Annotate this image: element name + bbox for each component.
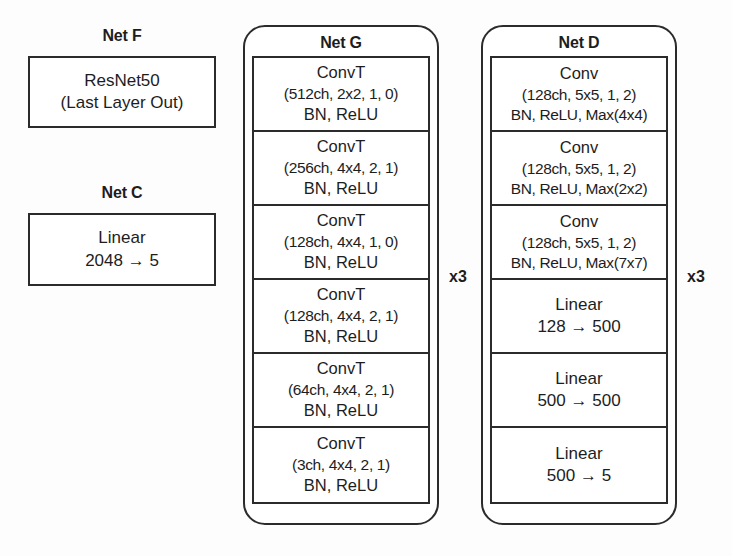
net-f-box-line-2: (Last Layer Out): [61, 92, 184, 114]
net-f-box-line-1: ResNet50: [84, 70, 160, 92]
net-g-block-3-params: (128ch, 4x4, 1, 0): [284, 232, 398, 252]
net-g-label: Net G: [252, 31, 430, 56]
net-g-block-3: ConvT (128ch, 4x4, 1, 0) BN, ReLU: [254, 206, 428, 280]
net-g-block-4-op: ConvT: [317, 284, 366, 305]
net-c-group: Net C Linear 2048 → 5: [28, 185, 216, 286]
net-d-block-2: Conv (128ch, 5x5, 1, 2) BN, ReLU, Max(2x…: [492, 132, 666, 206]
net-d-block-3-op: Conv: [560, 211, 599, 232]
net-d-block-3: Conv (128ch, 5x5, 1, 2) BN, ReLU, Max(7x…: [492, 206, 666, 280]
net-d-block-3-params: (128ch, 5x5, 1, 2): [522, 233, 636, 253]
net-g-block-6: ConvT (3ch, 4x4, 2, 1) BN, ReLU: [254, 428, 428, 502]
net-g-block-1-extras: BN, ReLU: [304, 104, 378, 125]
net-d-block-1-extras: BN, ReLU, Max(4x4): [511, 105, 648, 125]
net-d-block-1-params: (128ch, 5x5, 1, 2): [522, 85, 636, 105]
net-g-block-3-op: ConvT: [317, 210, 366, 231]
net-d-block-3-extras: BN, ReLU, Max(7x7): [511, 253, 648, 273]
net-g-block-2-extras: BN, ReLU: [304, 178, 378, 199]
net-g-block-1-params: (512ch, 2x2, 1, 0): [284, 84, 398, 104]
net-g-repeat-marker: x3: [449, 269, 467, 285]
net-g-block-6-extras: BN, ReLU: [304, 475, 378, 496]
net-g-block-1-op: ConvT: [317, 62, 366, 83]
net-g-block-6-params: (3ch, 4x4, 2, 1): [292, 455, 390, 475]
net-d-block-6: Linear 500 → 5: [492, 428, 666, 502]
net-d-block-2-op: Conv: [560, 137, 599, 158]
net-d-block-5-params: 500 → 500: [537, 390, 620, 412]
net-d-block-6-params: 500 → 5: [547, 465, 611, 487]
net-d-container: Net D Conv (128ch, 5x5, 1, 2) BN, ReLU, …: [481, 25, 677, 525]
net-c-box-line-1: Linear: [98, 227, 145, 249]
net-d-group: Net D Conv (128ch, 5x5, 1, 2) BN, ReLU, …: [481, 25, 677, 525]
net-c-box-line-2: 2048 → 5: [85, 250, 159, 272]
net-d-block-2-params: (128ch, 5x5, 1, 2): [522, 159, 636, 179]
net-g-block-1: ConvT (512ch, 2x2, 1, 0) BN, ReLU: [254, 58, 428, 132]
net-d-block-4: Linear 128 → 500: [492, 280, 666, 354]
net-g-block-5-extras: BN, ReLU: [304, 400, 378, 421]
net-g-block-4-extras: BN, ReLU: [304, 326, 378, 347]
net-d-block-6-op: Linear: [555, 443, 602, 465]
net-d-block-5: Linear 500 → 500: [492, 354, 666, 428]
net-g-block-2: ConvT (256ch, 4x4, 2, 1) BN, ReLU: [254, 132, 428, 206]
net-f-label: Net F: [28, 28, 216, 44]
net-g-block-3-extras: BN, ReLU: [304, 252, 378, 273]
net-g-container: Net G ConvT (512ch, 2x2, 1, 0) BN, ReLU …: [243, 25, 439, 525]
net-g-block-2-op: ConvT: [317, 136, 366, 157]
net-g-block-5-params: (64ch, 4x4, 2, 1): [288, 380, 394, 400]
net-d-repeat-marker: x3: [687, 269, 705, 285]
network-architecture-diagram: Net F ResNet50 (Last Layer Out) Net C Li…: [0, 0, 732, 556]
net-g-block-6-op: ConvT: [317, 433, 366, 454]
net-d-block-4-params: 128 → 500: [537, 316, 620, 338]
net-d-layer-stack: Conv (128ch, 5x5, 1, 2) BN, ReLU, Max(4x…: [490, 56, 668, 504]
net-g-block-4: ConvT (128ch, 4x4, 2, 1) BN, ReLU: [254, 280, 428, 354]
net-g-group: Net G ConvT (512ch, 2x2, 1, 0) BN, ReLU …: [243, 25, 439, 525]
net-g-block-5: ConvT (64ch, 4x4, 2, 1) BN, ReLU: [254, 354, 428, 428]
net-c-label: Net C: [28, 185, 216, 201]
net-f-box: ResNet50 (Last Layer Out): [28, 56, 216, 128]
net-g-block-2-params: (256ch, 4x4, 2, 1): [284, 158, 398, 178]
net-g-layer-stack: ConvT (512ch, 2x2, 1, 0) BN, ReLU ConvT …: [252, 56, 430, 504]
net-d-block-1-op: Conv: [560, 63, 599, 84]
net-d-label: Net D: [490, 31, 668, 56]
net-d-block-1: Conv (128ch, 5x5, 1, 2) BN, ReLU, Max(4x…: [492, 58, 666, 132]
net-g-block-4-params: (128ch, 4x4, 2, 1): [284, 306, 398, 326]
net-f-group: Net F ResNet50 (Last Layer Out): [28, 28, 216, 128]
net-g-block-5-op: ConvT: [317, 358, 366, 379]
net-c-box: Linear 2048 → 5: [28, 213, 216, 286]
net-d-block-5-op: Linear: [555, 368, 602, 390]
net-d-block-4-op: Linear: [555, 294, 602, 316]
net-d-block-2-extras: BN, ReLU, Max(2x2): [511, 179, 648, 199]
